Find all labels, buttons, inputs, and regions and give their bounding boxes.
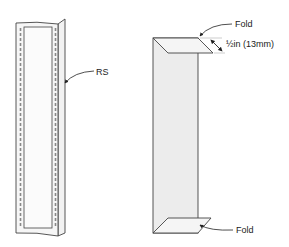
dimension-label: ½in (13mm) — [226, 39, 274, 49]
diagram-canvas: RS ½in (13mm) Fold Fold — [0, 0, 289, 247]
rs-leader-arrow — [65, 71, 94, 83]
strip-back-flap — [58, 19, 65, 236]
right-fold-figure: ½in (13mm) Fold Fold — [153, 19, 274, 235]
top-fold-label: Fold — [235, 19, 253, 29]
rs-label: RS — [96, 67, 109, 77]
strip-inner-panel — [24, 27, 52, 228]
top-fold-leader-arrow — [200, 24, 232, 36]
left-strip-figure: RS — [16, 19, 109, 236]
bottom-fold-leader-arrow — [200, 225, 233, 230]
folded-panel — [153, 38, 198, 233]
bottom-fold-label: Fold — [236, 225, 254, 235]
dimension-arrow — [212, 41, 222, 51]
